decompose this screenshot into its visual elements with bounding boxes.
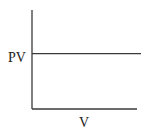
y-axis-label: PV bbox=[8, 50, 26, 65]
chart: PV V bbox=[0, 0, 146, 135]
x-axis-label: V bbox=[79, 115, 89, 130]
